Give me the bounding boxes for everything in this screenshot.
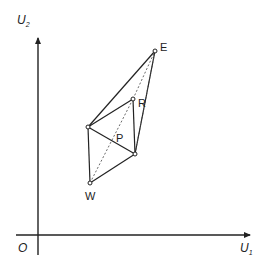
polygon-edges xyxy=(88,51,155,183)
origin-label: O xyxy=(18,241,27,255)
y-axis-label: U2 xyxy=(17,13,30,28)
point-label-r: R xyxy=(138,97,146,109)
point-label-w: W xyxy=(85,190,96,202)
point-left-vertex xyxy=(86,125,90,129)
x-axis-label: U1 xyxy=(240,241,253,256)
point-e xyxy=(153,49,157,53)
point-r xyxy=(131,97,135,101)
dashed-lines xyxy=(90,51,155,183)
point-label-p: P xyxy=(116,132,123,144)
utility-diagram: E R P W U2 U1 O xyxy=(0,0,263,269)
point-w xyxy=(88,181,92,185)
point-lower-right-vertex xyxy=(133,152,137,156)
point-label-e: E xyxy=(160,41,167,53)
